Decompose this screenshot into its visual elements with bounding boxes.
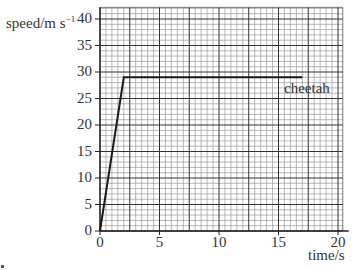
x-tick-15: 15 [267,235,291,250]
speed-time-graph [0,0,361,270]
y-tick-20: 20 [72,117,92,132]
y-tick-40: 40 [72,11,92,26]
y-tick-25: 25 [72,91,92,106]
x-axis-label: time/s [308,248,345,263]
y-tick-15: 15 [72,144,92,159]
y-tick-30: 30 [72,64,92,79]
x-tick-10: 10 [207,235,231,250]
y-tick-35: 35 [72,38,92,53]
y-tick-5: 5 [72,197,92,212]
y-axis-label-text: speed/m s [6,15,66,31]
corner-mark [1,265,4,268]
x-tick-0: 0 [88,235,112,250]
y-tick-10: 10 [72,170,92,185]
axes [95,7,349,235]
series-label-cheetah: cheetah [284,81,330,96]
major-grid [100,7,343,231]
y-axis-label: speed/m s−1 [6,12,75,31]
minor-grid [100,7,343,231]
x-tick-5: 5 [148,235,172,250]
